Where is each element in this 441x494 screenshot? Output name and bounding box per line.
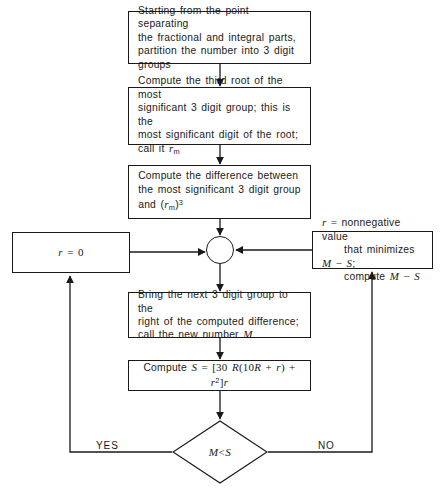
third-root-line-4-prefix: call it — [138, 143, 169, 154]
process-compute-third-root-label: Compute the third root of the mostsignif… — [129, 74, 310, 157]
difference-exponent-3: 3 — [179, 198, 183, 207]
difference-line-3-prefix: and ( — [138, 200, 164, 211]
decision-m-less-than-s: M < S — [172, 420, 268, 484]
rnonneg-equals: = — [327, 216, 342, 228]
third-root-subscript-m: m — [173, 146, 179, 155]
rnonneg-line-3-minus: − — [399, 270, 414, 282]
third-root-line-3: most significant digit of the root; — [138, 129, 298, 140]
bring-line-2: right of the computed difference; — [138, 316, 299, 327]
computes-bracket-open: [30 — [212, 361, 232, 373]
bring-line-3-prefix: call the new number — [138, 329, 243, 340]
computes-variable-r-5: r — [224, 377, 229, 389]
bring-variable-m: M — [243, 328, 252, 340]
rnonneg-line-2-semicolon: ; — [352, 258, 355, 269]
computes-paren-open: (10 — [239, 361, 254, 373]
computes-plus-2: + — [285, 361, 296, 373]
process-set-r-zero-label: r = 0 — [49, 246, 92, 259]
edge-label-yes: YES — [96, 440, 119, 451]
rnonneg-line-2-m: M — [322, 257, 331, 269]
process-set-r-nonnegative-label: r = nonnegative value that minimizes M −… — [313, 216, 432, 283]
rnonneg-line-3-m: M — [390, 270, 399, 282]
process-compute-s-label: Compute S = [30 R(10R + r) + r2]r — [129, 361, 310, 390]
third-root-line-2: significant 3 digit group; this is the — [138, 102, 290, 126]
decision-variable-s: S — [225, 446, 231, 458]
difference-line-2: the most significant 3 digit group — [138, 184, 301, 195]
third-root-line-1: Compute the third root of the most — [138, 75, 283, 99]
rnonneg-line-3-s: S — [414, 270, 420, 282]
process-partition-number-label: Starting from the point separating the f… — [129, 4, 310, 71]
decision-variable-m: M — [209, 446, 219, 458]
process-partition-number: Starting from the point separating the f… — [128, 11, 311, 64]
process-compute-s: Compute S = [30 R(10R + r) + r2]r — [128, 360, 311, 391]
computes-variable-r-1: R — [232, 361, 239, 373]
rnonneg-line-2-text: that minimizes — [344, 244, 415, 255]
edge-label-no: NO — [318, 440, 335, 451]
computes-prefix: Compute — [143, 362, 191, 373]
process-set-r-zero: r = 0 — [12, 232, 130, 273]
flowchart-canvas: Starting from the point separating the f… — [0, 0, 441, 494]
bring-line-1: Bring the next 3 digit group to the — [138, 289, 288, 313]
rnonneg-line-2-minus: − — [331, 257, 346, 269]
decision-diamond-label: M < S — [172, 420, 268, 484]
connector-junction-circle — [206, 236, 234, 264]
decision-operator: < — [219, 446, 226, 458]
r-zero-value: 0 — [78, 246, 84, 258]
process-compute-difference-label: Compute the difference betweenthe most s… — [129, 169, 310, 214]
process-bring-next-group: Bring the next 3 digit group to theright… — [128, 292, 311, 338]
rnonneg-line-3-text: compute — [344, 271, 390, 282]
process-set-r-nonnegative: r = nonnegative value that minimizes M −… — [312, 231, 433, 269]
process-bring-next-group-label: Bring the next 3 digit group to theright… — [129, 288, 310, 342]
computes-plus-1: + — [261, 361, 276, 373]
r-zero-equals: = — [63, 246, 78, 258]
process-compute-third-root: Compute the third root of the mostsignif… — [128, 87, 311, 145]
difference-line-1: Compute the difference between — [138, 170, 298, 181]
process-compute-difference: Compute the difference betweenthe most s… — [128, 165, 311, 219]
computes-equals: = — [197, 361, 212, 373]
